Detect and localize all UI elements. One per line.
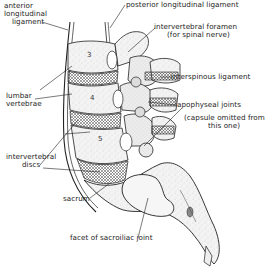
vertebra-number-3: 3 bbox=[87, 51, 91, 59]
label-posterior-longitudinal-ligament: posterior longitudinal ligament bbox=[126, 1, 239, 9]
label-interspinous-ligament: interspinous ligament bbox=[171, 73, 250, 81]
lumbar-spine-diagram: 3 4 5 anterior longitudinal ligament pos… bbox=[0, 0, 265, 272]
vertebra-number-5: 5 bbox=[98, 135, 102, 143]
label-lumbar-vertebrae: lumbar vertebrae bbox=[6, 92, 42, 108]
vertebra-5-body bbox=[71, 125, 128, 164]
label-apophyseal-joints: apophyseal joints bbox=[177, 101, 241, 109]
label-intervertebral-foramen: intervertebral foramen (for spinal nerve… bbox=[154, 23, 237, 39]
posterior-ligament-band bbox=[105, 22, 107, 45]
spine-illustration bbox=[0, 0, 265, 272]
label-anterior-longitudinal-ligament: anterior longitudinal ligament bbox=[4, 2, 47, 26]
vertebra-number-4: 4 bbox=[90, 94, 94, 102]
label-sacrum: sacrum bbox=[63, 195, 90, 203]
label-facet-of-sacroiliac-joint: facet of sacroiliac joint bbox=[70, 234, 153, 242]
label-intervertebral-discs: intervertebral discs bbox=[6, 153, 56, 169]
label-capsule-note: (capsule omitted from this one) bbox=[184, 114, 265, 130]
